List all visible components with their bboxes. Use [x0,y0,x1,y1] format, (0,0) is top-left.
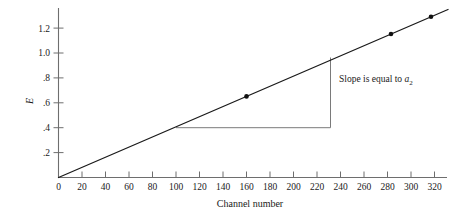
x-tick-label: 220 [310,182,325,192]
x-tick-label: 120 [192,182,207,192]
y-tick-label: 1.0 [38,48,50,58]
x-axis-title: Channel number [217,198,284,209]
x-axis-ticks [59,172,435,178]
x-tick-label: 300 [404,182,419,192]
y-axis-tick-labels: .2 .4 .6 .8 1.0 1.2 [38,24,50,159]
y-tick-label: .4 [43,123,50,133]
data-point [429,14,434,19]
chart-container: .2 .4 .6 .8 1.0 1.2 E [0,0,469,221]
x-tick-label: 160 [239,182,254,192]
x-tick-label: 260 [357,182,372,192]
x-tick-label: 200 [286,182,301,192]
y-axis-title: E [24,98,35,105]
x-tick-label: 320 [427,182,442,192]
x-tick-label: 60 [124,182,134,192]
x-tick-label: 40 [101,182,111,192]
slope-annotation-subscript: 2 [409,79,413,87]
x-tick-label: 240 [333,182,348,192]
y-tick-label: 1.2 [38,24,50,34]
y-tick-label: .2 [43,148,50,158]
data-point [244,94,249,99]
slope-annotation-prefix: Slope is equal to [339,74,404,84]
y-tick-label: .8 [43,73,50,83]
x-tick-label: 100 [169,182,184,192]
x-tick-label: 180 [263,182,278,192]
x-axis-tick-labels: 0 20 40 60 80 100 120 140 160 180 200 22… [56,182,442,192]
y-tick-label: .6 [43,98,50,108]
x-tick-label: 80 [148,182,158,192]
x-tick-label: 0 [56,182,61,192]
x-tick-label: 140 [216,182,231,192]
x-tick-label: 20 [77,182,87,192]
data-point [389,32,394,37]
slope-annotation-text: Slope is equal to a2 [339,74,413,87]
x-tick-label: 280 [380,182,395,192]
calibration-plot: .2 .4 .6 .8 1.0 1.2 E [0,0,469,221]
